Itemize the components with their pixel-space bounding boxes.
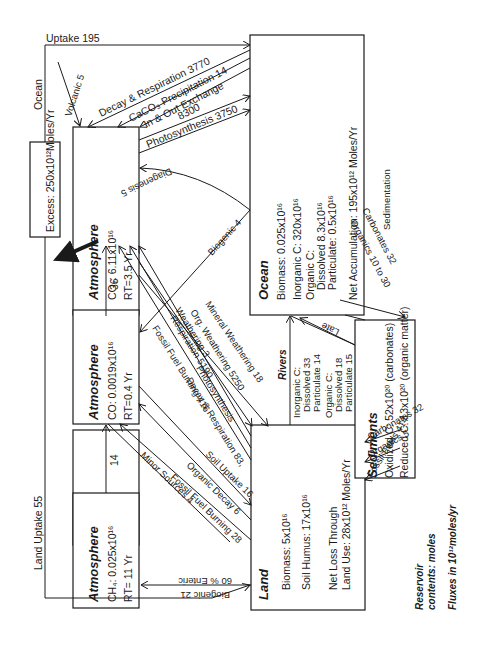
land-title: Land (256, 568, 271, 600)
atm-co2-title: Atmosphere (86, 224, 101, 301)
land-uptake-label: Land Uptake 55 (32, 496, 44, 570)
legend-reservoir: Reservoir (414, 563, 425, 610)
land-biomass: Biomass: 5x10¹⁶ (280, 513, 292, 590)
atm-ch4-amount: CH₄: 0.025x10¹⁶ (106, 526, 118, 602)
excess-label: Excess: 250x10¹²Moles/Yr (44, 109, 56, 232)
atm-co-rt: RT=0.4 Yr (122, 372, 134, 420)
ocean-biomass: Biomass: 0.025x10¹⁶ (275, 203, 287, 300)
land-soil-humus: Soil Humus: 17x10¹⁶ (300, 494, 312, 590)
legend-fluxes: Fluxes in 10¹²moles/yr (447, 504, 458, 610)
land-use-value: Land Use: 28x10¹² Moles/Yr (340, 459, 352, 590)
rivers-particulate: Particulate 14 (311, 354, 322, 412)
atm-co2-rt: RT=3.5 Yr (122, 252, 134, 300)
atm-ch4-title: Atmosphere (86, 526, 101, 603)
rivers-particulate-2: Particulate 15 (343, 354, 354, 412)
ch4-to-co-label: 14 (108, 454, 120, 466)
volcanic-label: Volcanic 5 (62, 73, 86, 118)
ocean-net-accumulation: Net Accumulation: 195x10¹² Moles/Yr (347, 126, 359, 300)
biogenic-21-label: Biogenic 21 (180, 590, 230, 601)
carbon-cycle-diagram: Excess: 250x10¹²Moles/Yr Atmosphere CO₂:… (0, 0, 490, 653)
land-net-loss: Net Loss Through (327, 507, 339, 590)
ocean-particulate: Particulate: 0.5x10¹⁶ (326, 195, 338, 290)
atm-co-title: Atmosphere (86, 344, 101, 421)
ocean-title: Ocean (256, 260, 271, 300)
sediments-reduced: Reduced C: 13x10²⁰ (organic matter) (398, 307, 410, 479)
atm-ch4-rt: RT= 11 Yr (122, 555, 134, 602)
ocean-uptake-label-a: Ocean (32, 79, 44, 110)
legend-contents: contents: moles (426, 533, 437, 610)
atm-co-amount: CO: 0.0019x10¹⁶ (106, 342, 118, 420)
ocean-inorganic: Inorganic C: 320x10¹⁶ (291, 198, 303, 300)
enteric-label: 60 % Enteric (178, 576, 232, 587)
co-to-co2-label: 36 (108, 278, 120, 290)
minor-sources-label: Minor Sources 4 (139, 450, 196, 506)
sedimentation-label: Sedimentation (381, 169, 392, 230)
rivers-label: Rivers (277, 349, 288, 380)
late-label: Late (319, 320, 340, 338)
ocean-uptake-label-b: Uptake 195 (46, 32, 100, 44)
biogenic-4-label: Biogenic 4 (205, 217, 243, 257)
